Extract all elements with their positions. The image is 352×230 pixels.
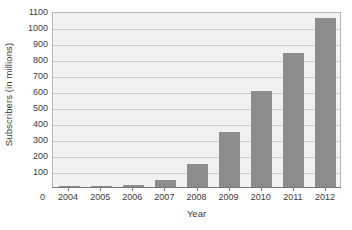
- y-axis-tick-label: 1100: [29, 8, 48, 17]
- x-axis-tick: [229, 188, 230, 191]
- x-axis-title: Year: [52, 208, 341, 219]
- x-axis-tick-label-2007: 2007: [148, 192, 180, 202]
- x-axis-tick: [132, 188, 133, 191]
- x-axis-tick-label-2012: 2012: [309, 192, 341, 202]
- x-axis-tick-labels: 200420052006200720082009201020112012: [0, 192, 352, 206]
- plot-area: [52, 12, 341, 188]
- bar-2007: [155, 180, 176, 187]
- bar-2011: [283, 53, 304, 187]
- x-axis-tick: [100, 188, 101, 191]
- x-axis-origin-label: 0: [40, 192, 45, 202]
- bar-2008: [187, 164, 208, 187]
- y-axis-tick-label: 900: [33, 40, 48, 49]
- x-axis-tick: [325, 188, 326, 191]
- y-axis-tick-label: 700: [33, 72, 48, 81]
- y-axis-tick-label: 100: [33, 168, 48, 177]
- x-axis-tick-label-2006: 2006: [116, 192, 148, 202]
- x-axis-tick-label-2008: 2008: [181, 192, 213, 202]
- y-axis-title-text: Subscribers (in millions): [4, 42, 15, 145]
- bar-chart-figure: Subscribers (in millions) 10020030040050…: [0, 0, 352, 230]
- y-axis-tick-label: 600: [33, 88, 48, 97]
- bar-2010: [251, 91, 272, 187]
- y-axis-tick-label: 1000: [28, 24, 48, 33]
- x-axis-tick: [293, 188, 294, 191]
- x-axis-tick-label-2005: 2005: [84, 192, 116, 202]
- x-axis-tick: [197, 188, 198, 191]
- bar-series: [53, 13, 340, 187]
- x-axis-tick: [261, 188, 262, 191]
- y-axis-tick-label: 400: [33, 120, 48, 129]
- x-axis-tick-label-2004: 2004: [52, 192, 84, 202]
- y-axis-title: Subscribers (in millions): [0, 0, 18, 188]
- y-axis-tick-label: 800: [33, 56, 48, 65]
- y-axis-tick-label: 300: [33, 136, 48, 145]
- x-axis-tick-label-2011: 2011: [277, 192, 309, 202]
- x-axis-tick-label-2010: 2010: [245, 192, 277, 202]
- x-axis-tick: [68, 188, 69, 191]
- y-axis-tick-label: 200: [33, 152, 48, 161]
- bar-2009: [219, 132, 240, 187]
- y-axis-tick-label: 500: [33, 104, 48, 113]
- x-axis-tick: [164, 188, 165, 191]
- x-axis-tick-label-2009: 2009: [213, 192, 245, 202]
- bar-2012: [315, 18, 336, 187]
